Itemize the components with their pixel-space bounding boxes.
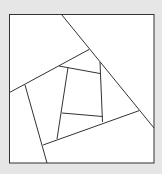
spiral-diagram — [0, 0, 162, 174]
outer-square — [10, 15, 155, 164]
